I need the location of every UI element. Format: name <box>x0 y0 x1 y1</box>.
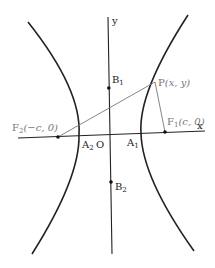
label-f2: F2(−c, 0) <box>12 122 58 135</box>
origin-label: O <box>96 139 104 150</box>
label-a1: A1 <box>126 137 139 150</box>
label-p: P(x, y) <box>158 77 190 88</box>
point-b2 <box>109 180 113 184</box>
y-axis <box>108 17 112 254</box>
point-f2 <box>56 135 60 139</box>
label-a2: A2 <box>81 139 94 152</box>
y-axis-label: y <box>111 15 118 26</box>
segment-pf1 <box>155 82 165 132</box>
point-b1 <box>107 86 111 90</box>
label-b2: B2 <box>115 181 127 194</box>
hyperbola-left-branch <box>28 22 79 254</box>
point-f1 <box>163 130 167 134</box>
label-b1: B1 <box>112 74 124 87</box>
hyperbola-diagram: y x O B1 B2 A2 A1 P(x, y) F1(c, 0) F2(−c… <box>0 0 215 268</box>
